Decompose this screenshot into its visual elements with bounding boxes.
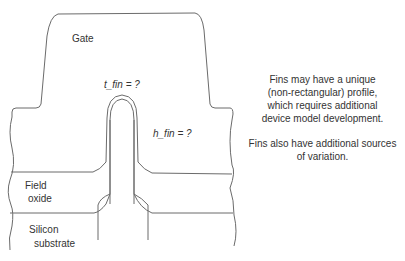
profile-note-line4: device model development. — [240, 112, 405, 125]
variation-note-line2: of variation. — [240, 150, 405, 163]
profile-note: Fins may have a unique (non-rectangular)… — [240, 73, 405, 125]
field-oxide-right — [134, 194, 233, 213]
field-oxide-label-line2: oxide — [28, 193, 52, 205]
gate-left-boundary — [11, 95, 232, 174]
gate-label: Gate — [72, 33, 94, 45]
profile-note-line2: (non-rectangular) profile, — [240, 86, 405, 99]
t-fin-label: t_fin = ? — [104, 79, 140, 91]
finfet-cross-section-diagram — [0, 0, 405, 261]
substrate-label-line1: Silicon — [29, 224, 58, 236]
gate-outline — [12, 13, 233, 120]
right-edge — [230, 120, 236, 246]
variation-note-line1: Fins also have additional sources — [240, 137, 405, 150]
profile-note-line3: which requires additional — [240, 99, 405, 112]
field-oxide-left — [10, 194, 110, 213]
profile-note-line1: Fins may have a unique — [240, 73, 405, 86]
left-edge — [8, 117, 13, 250]
substrate-label-line2: substrate — [34, 238, 75, 250]
fin-outline — [98, 99, 148, 240]
variation-note: Fins also have additional sources of var… — [240, 137, 405, 163]
field-oxide-label-line1: Field — [25, 180, 47, 192]
h-fin-label: h_fin = ? — [153, 128, 192, 140]
